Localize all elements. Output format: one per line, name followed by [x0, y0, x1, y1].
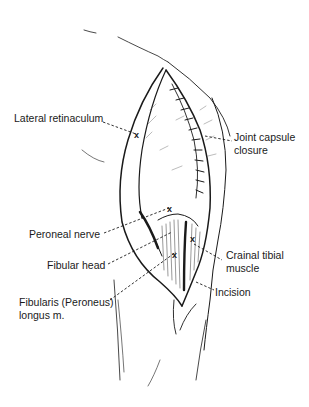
label-joint-capsule-closure: closure [234, 144, 268, 156]
label-cranial-tibial-muscle: muscle [226, 262, 259, 274]
marker-x-icon: x [190, 234, 195, 244]
label-fibular-head: Fibular head [47, 259, 105, 271]
label-fibularis-longus-2: longus m. [19, 309, 65, 321]
label-incision: Incision [215, 286, 251, 298]
stifle-drawing: x x x x [0, 0, 309, 407]
anatomical-illustration: x x x x Lateral retinaculum Joint capsul… [0, 0, 309, 407]
label-cranial-tibial: Crainal tibial [226, 249, 284, 261]
label-fibularis-longus: Fibularis (Peroneus) [19, 296, 114, 308]
label-joint-capsule: Joint capsule [234, 131, 295, 143]
label-peroneal-nerve: Peroneal nerve [29, 228, 100, 240]
marker-x-icon: x [134, 130, 139, 140]
label-lateral-retinaculum: Lateral retinaculum [14, 112, 103, 124]
marker-x-icon: x [172, 250, 177, 260]
marker-x-icon: x [167, 204, 172, 214]
